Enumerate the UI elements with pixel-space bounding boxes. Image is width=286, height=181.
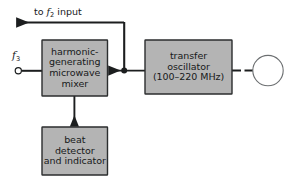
block-diagram: harmonic- generating microwave mixer tra…	[0, 0, 286, 181]
oscillator-output-terminal-circle[interactable]	[253, 55, 283, 85]
f3-subscript: 3	[16, 55, 20, 63]
to-f2-subscript: 2	[50, 11, 54, 19]
block-beat-detector[interactable]	[42, 127, 108, 175]
to-f2-input-label: to f2 input	[34, 6, 82, 19]
to-f2-suffix: input	[54, 6, 81, 17]
branch-junction-dot	[121, 68, 127, 74]
block-transfer-oscillator[interactable]	[145, 40, 232, 94]
block-mixer[interactable]	[42, 40, 108, 96]
f3-input-label: f3	[12, 50, 20, 63]
diagram-canvas	[0, 0, 286, 181]
to-f2-prefix: to	[34, 6, 47, 17]
f3-input-terminal-circle[interactable]	[15, 68, 21, 74]
